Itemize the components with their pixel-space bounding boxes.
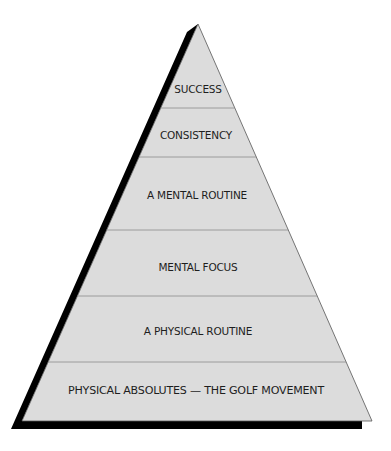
level-label-mental-focus: MENTAL FOCUS bbox=[158, 261, 238, 273]
level-label-success: SUCCESS bbox=[174, 83, 222, 95]
level-label-mental-routine: A MENTAL ROUTINE bbox=[147, 189, 247, 201]
pyramid-diagram: SUCCESS CONSISTENCY A MENTAL ROUTINE MEN… bbox=[0, 0, 391, 451]
level-label-physical-absolutes: PHYSICAL ABSOLUTES — THE GOLF MOVEMENT bbox=[68, 384, 325, 396]
level-label-physical-routine: A PHYSICAL ROUTINE bbox=[144, 325, 252, 337]
level-label-consistency: CONSISTENCY bbox=[160, 129, 233, 141]
